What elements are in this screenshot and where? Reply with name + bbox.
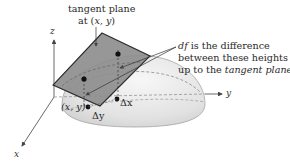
x-axis-label: x <box>14 150 19 159</box>
delta-y-label: Δy <box>92 111 104 121</box>
point-xy-label: (x, y) <box>61 102 85 112</box>
tangent-plane-diagram <box>0 0 290 162</box>
y-axis-label: y <box>226 89 231 98</box>
delta-x-label: Δx <box>120 98 132 108</box>
annotation-line-1: df is the difference <box>178 41 270 51</box>
tangent-plane-label: tangent plane <box>68 4 135 14</box>
x-axis <box>22 97 54 146</box>
tangent-plane-point-label: at (x, y) <box>78 16 115 26</box>
annotation-line-2: between these heights <box>178 53 288 63</box>
annotation-line-3: up to the tangent plane <box>178 65 290 75</box>
z-axis-label: z <box>50 27 55 36</box>
